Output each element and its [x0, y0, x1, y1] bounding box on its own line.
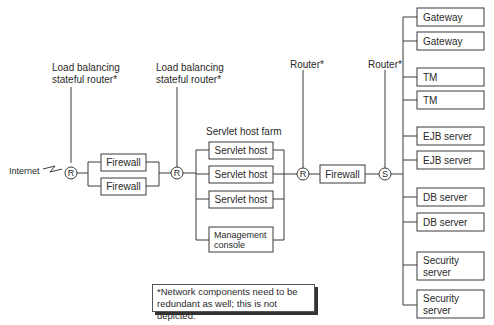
network-diagram: R Firewall Firewall R Servlet host Servl… [0, 0, 494, 325]
note-line-2: redundant as well; this is not depicted. [157, 298, 310, 322]
ejb-server-1-label: EJB server [423, 131, 473, 142]
router-3-label: Router* [290, 59, 324, 71]
servlet-host-1-label: Servlet host [215, 145, 268, 156]
servlet-host-2-label: Servlet host [215, 169, 268, 180]
internet-label: Internet [9, 165, 40, 177]
lb-router-2-label: Load balancing stateful router* [156, 62, 224, 86]
firewall-1b-label: Firewall [106, 181, 140, 192]
gateway-2-label: Gateway [423, 36, 462, 47]
firewall-1a-label: Firewall [106, 157, 140, 168]
security-server-2-label-2: server [423, 305, 451, 316]
lb-router-2-label-1: Load balancing [156, 62, 224, 74]
switch-label: Router* [368, 59, 402, 71]
lb-router-2-glyph: R [174, 168, 181, 178]
management-console-label-1: Management [214, 230, 267, 240]
redundancy-note: *Network components need to be redundant… [152, 284, 315, 312]
lb-router-1-glyph: R [68, 168, 75, 178]
db-server-2-label: DB server [423, 217, 468, 228]
security-server-1-label-2: server [423, 267, 451, 278]
servlet-host-3-label: Servlet host [215, 194, 268, 205]
firewall-2-label: Firewall [325, 169, 359, 180]
security-server-1-label-1: Security [423, 255, 459, 266]
lb-router-1-label: Load balancing stateful router* [52, 62, 120, 86]
lb-router-1-label-1: Load balancing [52, 62, 120, 74]
tm-1-label: TM [423, 72, 437, 83]
security-server-2-label-1: Security [423, 293, 459, 304]
management-console-label-2: console [214, 240, 245, 250]
lb-router-2-label-2: stateful router* [156, 74, 224, 86]
gateway-1-label: Gateway [423, 12, 462, 23]
lb-router-1-label-2: stateful router* [52, 74, 120, 86]
switch-glyph: S [382, 169, 388, 179]
servlet-farm-title: Servlet host farm [206, 126, 282, 138]
tm-2-label: TM [423, 95, 437, 106]
ejb-server-2-label: EJB server [423, 155, 473, 166]
note-line-1: *Network components need to be [157, 286, 310, 298]
db-server-1-label: DB server [423, 192, 468, 203]
router-3-glyph: R [300, 169, 307, 179]
internet-link-icon [43, 166, 62, 172]
